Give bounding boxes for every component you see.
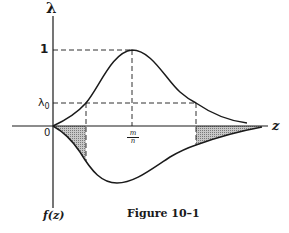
lambda0-sub: 0	[45, 102, 50, 111]
y-axis-lower-label: f(z)	[43, 210, 64, 221]
shaded-region-left	[53, 126, 86, 161]
tick-label-lambda0: λ0	[38, 97, 50, 111]
figure-canvas	[0, 0, 289, 233]
y-axis-upper-label: λ	[46, 1, 57, 16]
lambda-curve	[53, 50, 247, 126]
x-axis-label: z	[272, 119, 279, 132]
fraction-denominator: n	[127, 138, 139, 145]
tick-label-one: 1	[40, 43, 48, 55]
tick-label-m-over-n: m n	[127, 130, 139, 145]
figure-caption: Figure 10–1	[127, 208, 200, 219]
origin-label: 0	[44, 128, 50, 138]
